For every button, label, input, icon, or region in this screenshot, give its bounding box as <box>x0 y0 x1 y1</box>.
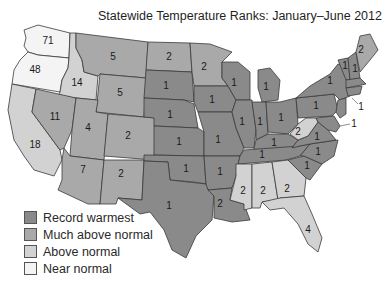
label-tn: 1 <box>259 149 265 160</box>
label-il: 1 <box>239 116 245 127</box>
legend-swatch <box>24 262 37 275</box>
label-nh: 1 <box>352 63 358 74</box>
legend-label: Near normal <box>43 262 112 276</box>
callout-line-northeast <box>352 98 358 104</box>
legend-label: Record warmest <box>43 211 134 225</box>
label-ky: 1 <box>271 137 277 148</box>
state-mi <box>258 68 280 102</box>
legend-label: Above normal <box>43 245 120 259</box>
label-nm: 2 <box>118 168 124 179</box>
label-va: 1 <box>314 131 320 142</box>
label-ny: 1 <box>327 75 333 86</box>
label-mo: 1 <box>215 134 221 145</box>
label-al: 2 <box>260 185 266 196</box>
label-sd: 1 <box>163 80 169 91</box>
label-sc: 1 <box>304 160 310 171</box>
label-ms: 2 <box>240 185 246 196</box>
legend-item-record-warmest: Record warmest <box>24 209 153 226</box>
label-in: 1 <box>257 116 263 127</box>
legend-swatch <box>24 245 37 258</box>
label-id: 14 <box>71 77 83 88</box>
label-callout-northeast: 1 <box>358 101 364 112</box>
legend-label: Much above normal <box>43 228 153 242</box>
label-wa: 71 <box>42 35 54 46</box>
label-co: 2 <box>125 130 131 141</box>
label-az: 7 <box>80 164 86 175</box>
state-nm <box>100 160 144 204</box>
label-ca: 18 <box>29 139 41 150</box>
label-wi: 1 <box>231 77 237 88</box>
label-nd: 2 <box>166 51 172 62</box>
callout-line-mid-atlantic <box>340 124 350 126</box>
state-nj <box>336 98 346 118</box>
label-la: 2 <box>217 198 223 209</box>
label-ar: 1 <box>217 166 223 177</box>
label-mi: 1 <box>263 81 269 92</box>
legend-item-much-above-normal: Much above normal <box>24 226 153 243</box>
legend-swatch <box>24 228 37 241</box>
label-ut: 4 <box>85 122 91 133</box>
label-oh: 1 <box>278 112 284 123</box>
legend: Record warmest Much above normal Above n… <box>24 209 153 277</box>
label-me: 2 <box>358 44 364 55</box>
state-ct-ri <box>346 86 362 96</box>
label-or: 48 <box>29 64 41 75</box>
label-fl: 4 <box>305 224 311 235</box>
label-nc: 1 <box>315 146 321 157</box>
state-fl <box>262 196 322 252</box>
legend-item-above-normal: Above normal <box>24 243 153 260</box>
label-vt: 1 <box>342 60 348 71</box>
legend-item-near-normal: Near normal <box>24 260 153 277</box>
label-mn: 2 <box>201 61 207 72</box>
label-callout-mid-atlantic: 1 <box>351 118 357 129</box>
label-wv: 2 <box>295 126 301 137</box>
label-ks: 1 <box>176 136 182 147</box>
label-tx: 1 <box>166 200 172 211</box>
label-ne: 1 <box>167 109 173 120</box>
label-ia: 1 <box>209 94 215 105</box>
label-ok: 1 <box>183 163 189 174</box>
state-ia <box>194 86 236 112</box>
label-mt: 5 <box>110 51 116 62</box>
label-pa: 1 <box>313 100 319 111</box>
state-sd <box>144 70 194 102</box>
label-ga: 2 <box>284 183 290 194</box>
label-wy: 5 <box>117 87 123 98</box>
legend-swatch <box>24 211 37 224</box>
label-nv: 11 <box>50 111 61 122</box>
